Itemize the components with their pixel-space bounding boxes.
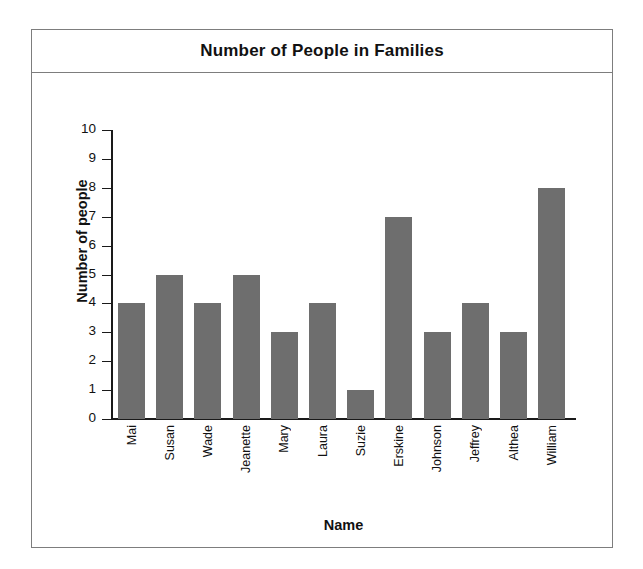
x-axis-tick-label: Erskine [392,425,406,467]
x-axis-tick-label: Mai [125,425,139,445]
y-axis-tick: 8 [102,188,111,189]
x-axis-tick-label: Laura [316,425,330,457]
y-axis-tick-label: 0 [88,410,96,425]
y-axis-tick: 4 [102,303,111,304]
plot-area: Number of people 109876543210 MaiSusanWa… [32,73,612,548]
y-axis-tick-label: 1 [88,381,96,396]
y-axis-tick: 0 [102,419,111,420]
x-axis-tick-label: Johnson [430,425,444,472]
x-axis-tick-label: Jeffrey [468,425,482,462]
bar [462,303,489,419]
y-axis-tick-label: 3 [88,323,96,338]
bar [500,332,527,419]
y-axis-tick-label: 5 [88,266,96,281]
x-axis-tick-label: Althea [507,425,521,460]
y-axis-tick-label: 4 [88,294,96,309]
bar-series [113,130,576,419]
bar [271,332,298,419]
page-title: Number of People in Families [200,41,444,61]
bar [156,275,183,420]
bar [118,303,145,419]
x-axis-tick-label: Susan [163,425,177,460]
x-axis-title: Name [111,517,576,533]
x-axis-tick-label: Wade [201,425,215,457]
y-axis-tick: 1 [102,390,111,391]
y-axis-tick: 3 [102,332,111,333]
y-axis-tick-label: 9 [88,150,96,165]
x-axis-tick-label: Suzie [354,425,368,456]
y-axis-tick: 6 [102,246,111,247]
y-axis-tick: 10 [102,130,111,131]
bar [538,188,565,419]
y-axis-tick: 5 [102,275,111,276]
bar [347,390,374,419]
y-axis-tick: 2 [102,361,111,362]
y-axis-tick-label: 2 [88,352,96,367]
y-axis-tick-label: 7 [88,208,96,223]
x-axis-tick-label: William [545,425,559,465]
bar [424,332,451,419]
y-axis-tick: 9 [102,159,111,160]
y-axis-tick-label: 8 [88,179,96,194]
bar [233,275,260,420]
x-axis-tick-label: Jeanette [239,425,253,473]
bar [385,217,412,419]
bar [309,303,336,419]
chart-title-bar: Number of People in Families [32,30,612,73]
bar [194,303,221,419]
x-axis-tick-label: Mary [277,425,291,453]
y-axis-tick-label: 6 [88,237,96,252]
y-axis-tick: 7 [102,217,111,218]
y-axis-tick-label: 10 [81,121,96,136]
chart-figure-frame: Number of People in Families Number of p… [31,29,613,548]
